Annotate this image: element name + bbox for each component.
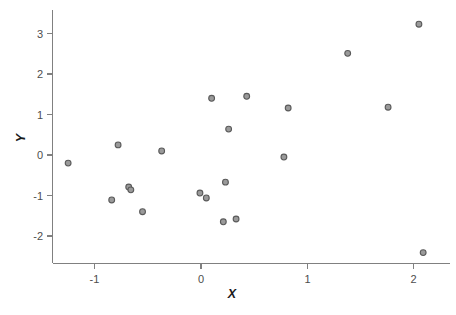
data-point — [416, 21, 422, 27]
y-tick-label-neg1: -1 — [33, 190, 43, 202]
data-point — [65, 160, 71, 166]
data-point — [159, 148, 165, 154]
x-tick-label-1: 1 — [304, 273, 310, 285]
data-point — [220, 219, 226, 225]
data-point — [420, 250, 426, 256]
y-tick-label-neg2: -2 — [33, 230, 43, 242]
data-point — [223, 179, 229, 185]
y-tick-label-1: 1 — [37, 109, 43, 121]
data-point — [385, 104, 391, 110]
x-tick-label-2: 2 — [410, 273, 416, 285]
x-axis-title: X — [227, 287, 237, 301]
data-point — [209, 95, 215, 101]
x-tick-label-neg1: -1 — [90, 273, 100, 285]
data-point — [244, 93, 250, 99]
y-tick-label-0: 0 — [37, 149, 43, 161]
data-point — [115, 142, 121, 148]
data-point — [285, 105, 291, 111]
data-point — [345, 50, 351, 56]
data-point — [109, 197, 115, 203]
data-point — [233, 216, 239, 222]
data-point — [128, 187, 134, 193]
data-point — [203, 195, 209, 201]
x-tick-label-0: 0 — [198, 273, 204, 285]
data-point — [226, 126, 232, 132]
scatter-plot-canvas: 3 2 1 0 -1 -2 -1 0 1 2 X Y — [0, 0, 456, 315]
scatter-plot-figure: 3 2 1 0 -1 -2 -1 0 1 2 X Y — [0, 0, 456, 315]
plot-background — [0, 0, 456, 315]
data-point — [140, 209, 146, 215]
y-tick-label-2: 2 — [37, 68, 43, 80]
y-tick-label-3: 3 — [37, 28, 43, 40]
data-point — [197, 190, 203, 196]
data-point — [281, 154, 287, 160]
